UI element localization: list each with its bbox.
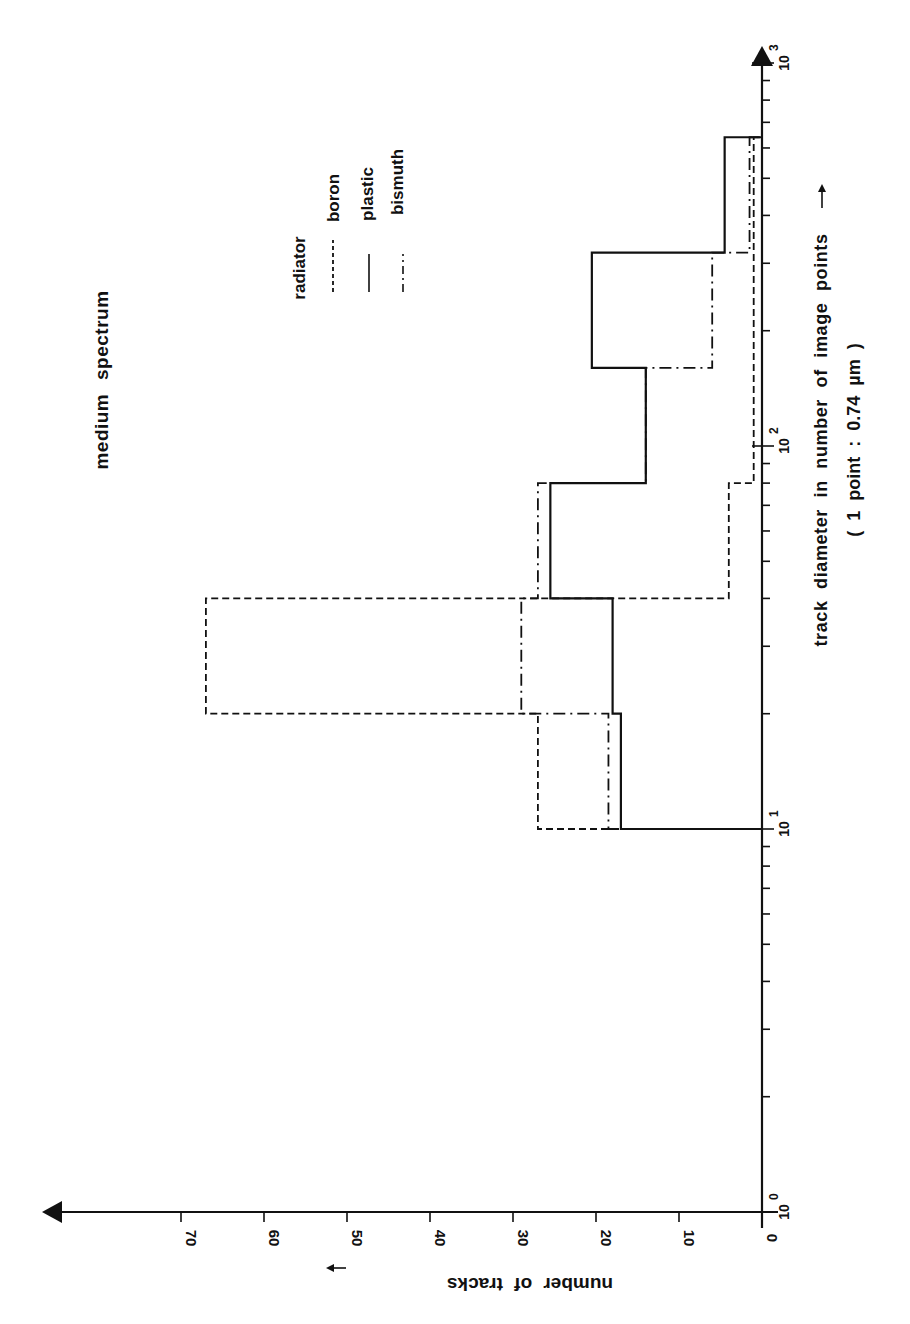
svg-text:1: 1 — [767, 810, 781, 817]
svg-text:10: 10 — [776, 821, 792, 837]
legend-title: radiator — [290, 236, 309, 300]
svg-text:10: 10 — [776, 438, 792, 454]
count-tick-label: 30 — [515, 1230, 532, 1247]
series-plastic — [550, 137, 762, 829]
count-tick-label: 40 — [432, 1230, 449, 1247]
svg-text:10: 10 — [776, 1204, 792, 1220]
count-axis-label: number of tracks — [447, 1274, 613, 1295]
diameter-tick-label: 100 — [767, 1193, 792, 1220]
count-tick-label: 20 — [598, 1230, 615, 1247]
count-tick-label: 0 — [764, 1234, 781, 1242]
legend-label-boron: boron — [324, 174, 343, 222]
diameter-axis-sublabel: ( 1 point : 0.74 µm ) — [844, 343, 864, 536]
svg-text:2: 2 — [767, 427, 781, 434]
svg-text:0: 0 — [767, 1193, 781, 1200]
svg-text:3: 3 — [767, 44, 781, 51]
rotated-histogram-chart: 010203040506070 100101102103 medium spec… — [0, 0, 910, 1324]
count-tick-label: 50 — [349, 1230, 366, 1247]
count-tick-label: 10 — [681, 1230, 698, 1247]
diameter-tick-label: 103 — [767, 44, 792, 71]
axes — [42, 46, 778, 1228]
legend: radiator boron plastic bismuth — [290, 149, 407, 300]
diameter-ticks: 100101102103 — [752, 44, 792, 1220]
count-ticks: 010203040506070 — [181, 1212, 781, 1246]
chart-title: medium spectrum — [91, 290, 112, 469]
diameter-axis-label: track diameter in number of image points — [811, 233, 831, 646]
count-tick-label: 70 — [183, 1230, 200, 1247]
count-axis-direction-arrow-icon — [326, 1264, 346, 1272]
diameter-axis-direction-arrow-icon — [818, 184, 826, 208]
count-tick-label: 60 — [266, 1230, 283, 1247]
legend-label-plastic: plastic — [358, 167, 377, 221]
diameter-tick-label: 101 — [767, 810, 792, 837]
legend-label-bismuth: bismuth — [388, 149, 407, 215]
count-axis-arrow-icon — [42, 1201, 62, 1223]
svg-text:10: 10 — [776, 55, 792, 71]
diameter-tick-label: 102 — [767, 427, 792, 454]
